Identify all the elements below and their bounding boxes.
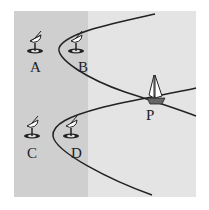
station-label-d: D [71,146,82,161]
station-label-c: C [27,146,37,161]
station-label-b: B [78,60,88,75]
point-label-p: P [146,108,154,123]
diagram-canvas [0,0,209,210]
station-label-a: A [30,60,41,75]
hyperbola-diagram: A B C D P [0,0,209,210]
